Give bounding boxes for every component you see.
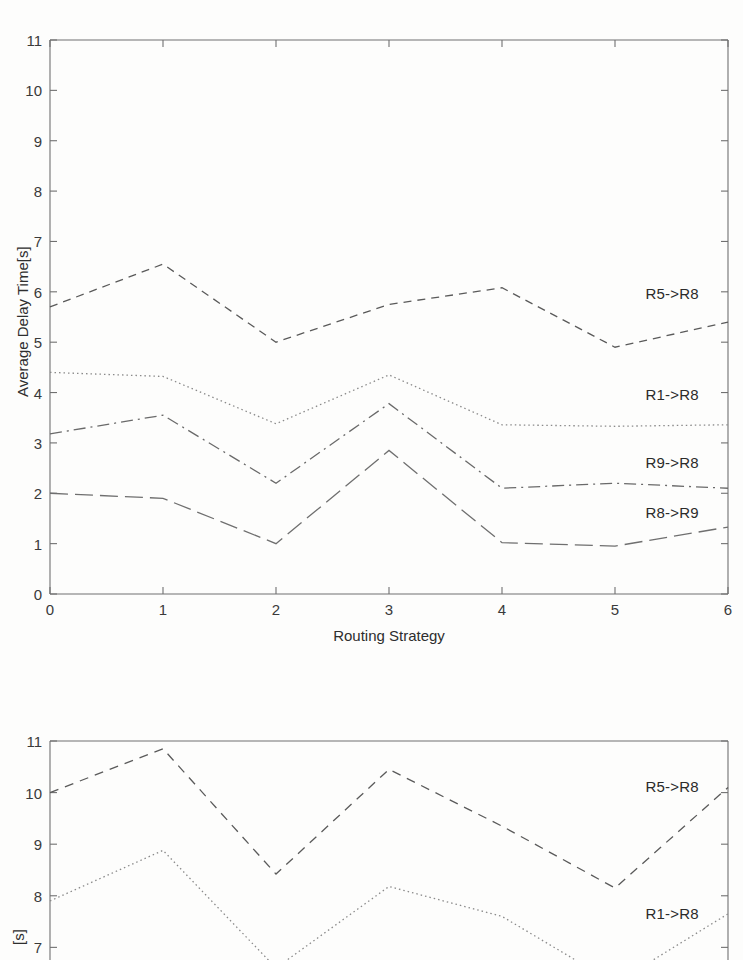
y-axis-title-bottom: [s] [10, 929, 27, 945]
y-tick-label: 9 [10, 837, 42, 852]
series-label: R1->R8 [646, 905, 699, 922]
x-tick-label: 0 [46, 602, 54, 617]
plot-area-bottom [0, 700, 743, 960]
x-tick-label: 3 [385, 602, 393, 617]
series-label: R5->R8 [646, 285, 699, 302]
y-tick-label: 9 [10, 133, 42, 148]
y-tick-label: 0 [10, 587, 42, 602]
x-axis-title-top: Routing Strategy [333, 627, 445, 644]
y-tick-label: 3 [10, 435, 42, 450]
series-label: R9->R8 [646, 454, 699, 471]
plot-area-top [0, 0, 743, 660]
y-tick-label: 11 [10, 33, 42, 48]
series-label: R5->R8 [646, 778, 699, 795]
y-tick-label: 1 [10, 536, 42, 551]
y-axis-title-top: Average Delay Time[s] [14, 246, 31, 397]
x-tick-label: 4 [498, 602, 506, 617]
x-tick-label: 2 [272, 602, 280, 617]
series-label: R1->R8 [646, 386, 699, 403]
x-tick-label: 5 [611, 602, 619, 617]
series-label: R8->R9 [646, 504, 699, 521]
chart-figure-bottom: 7891011 R5->R8R1->R8 [s] [0, 700, 743, 960]
y-tick-label: 8 [10, 888, 42, 903]
x-tick-label: 6 [724, 602, 732, 617]
y-tick-label: 11 [10, 734, 42, 749]
x-tick-label: 1 [159, 602, 167, 617]
y-tick-label: 8 [10, 184, 42, 199]
y-tick-label: 10 [10, 785, 42, 800]
chart-figure-top: 012345678910110123456 R5->R8R1->R8R9->R8… [0, 0, 743, 660]
y-tick-label: 2 [10, 486, 42, 501]
y-tick-label: 10 [10, 83, 42, 98]
